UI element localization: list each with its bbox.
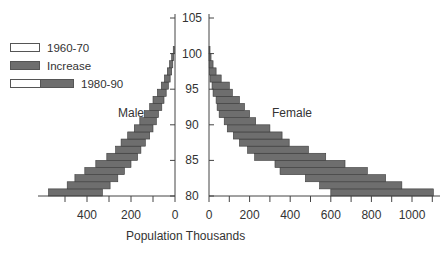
male-bar [167,68,171,75]
male-bar [134,125,153,132]
male-bar [121,139,145,146]
female-panel-label: Female [272,106,312,120]
male-bar [128,132,150,139]
female-x-tick-label: 600 [321,208,341,222]
legend-label: 1960-70 [47,42,89,54]
male-bar [67,182,110,189]
male-panel-label: Male [118,106,144,120]
female-bar [210,75,221,82]
y-tick-label: 105 [182,11,202,25]
male-bar [96,160,131,167]
legend-swatch-grey [10,61,40,70]
male-bar [153,96,164,103]
female-bar [320,182,402,189]
male-bar [85,168,125,175]
female-bar [216,96,239,103]
female-bar [255,153,326,160]
female-bar [275,160,345,167]
female-bar [331,189,434,196]
legend-item-increase: Increase [10,58,123,73]
male-bar [75,175,118,182]
legend-item-1960-70: 1960-70 [10,40,123,55]
female-bar [233,132,282,139]
female-x-tick-label: 200 [240,208,260,222]
female-bar [239,139,289,146]
female-bar [219,111,249,118]
female-bar [217,103,244,110]
female-x-tick-label: 0 [206,208,213,222]
female-x-tick-label: 1000 [399,208,426,222]
legend-label: Increase [47,60,91,72]
female-x-tick-label: 800 [361,208,381,222]
y-tick-label: 95 [185,82,199,96]
legend: 1960-70 Increase 1980-90 [10,40,123,94]
male-bar [157,89,166,96]
female-bars [209,46,433,196]
female-bar [213,89,232,96]
male-bar [150,103,162,110]
y-tick-label: 85 [185,153,199,167]
population-pyramid-chart: 80859095100105400200002004006008001000 M… [0,0,448,253]
female-x-tick-label: 400 [280,208,300,222]
x-axis-title: Population Thousands [126,229,245,243]
legend-swatch-white [10,43,40,52]
male-bar [49,189,103,196]
female-bar [209,61,213,68]
y-tick-label: 90 [185,118,199,132]
female-bar [212,82,229,89]
male-x-tick-label: 0 [172,208,179,222]
female-bar [227,125,270,132]
male-bar [164,75,170,82]
y-tick-label: 80 [185,189,199,203]
male-bar [173,46,174,53]
male-x-tick-label: 400 [77,208,97,222]
male-bar [107,153,138,160]
female-bar [280,168,367,175]
female-bar [248,146,309,153]
male-bar [170,61,173,68]
legend-item-1980-90: 1980-90 [10,76,123,91]
male-bar [116,146,141,153]
male-bar [161,82,168,89]
female-bar [209,68,216,75]
legend-label: 1980-90 [81,78,123,90]
female-bar [224,118,255,125]
female-bar [305,175,385,182]
male-bar [172,54,174,61]
legend-swatch-combo [10,79,74,88]
y-tick-label: 100 [182,47,202,61]
male-x-tick-label: 200 [121,208,141,222]
male-bar [144,111,158,118]
